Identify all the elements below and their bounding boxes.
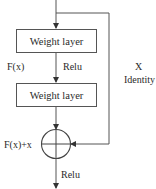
relu-mid-label: Relu <box>63 62 82 72</box>
weight-layer-1: Weight layer <box>16 29 97 53</box>
identity-label: Identity <box>124 75 155 85</box>
relu-out-label: Relu <box>61 170 80 180</box>
weight-layer-2: Weight layer <box>16 83 97 107</box>
residual-block-diagram: Weight layer Weight layer F(x) Relu X Id… <box>0 0 156 189</box>
fx-label: F(x) <box>7 62 24 72</box>
sum-label: F(x)+x <box>4 140 32 150</box>
x-label: X <box>135 62 142 72</box>
